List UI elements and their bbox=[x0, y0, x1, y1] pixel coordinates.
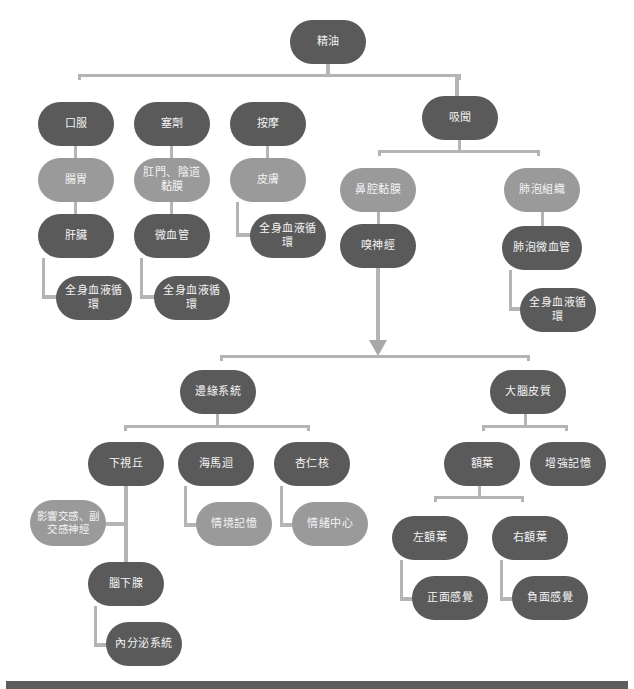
node-olfactory-nerve: 嗅神經 bbox=[340, 224, 416, 268]
connector-bracket bbox=[482, 425, 568, 431]
node-emotion-center: 情緒中心 bbox=[292, 502, 368, 546]
node-systemic-circulation: 全身血液循環 bbox=[520, 288, 596, 332]
connector-bracket bbox=[124, 425, 310, 431]
node-positive-feeling: 正面感覺 bbox=[412, 576, 488, 620]
connector bbox=[236, 202, 239, 236]
connector-bracket bbox=[434, 496, 524, 502]
connector bbox=[184, 486, 187, 526]
connector bbox=[42, 258, 45, 298]
node-inhalation: 吸聞 bbox=[422, 96, 498, 140]
node-limbic-system: 邊緣系統 bbox=[180, 370, 256, 414]
connector bbox=[94, 606, 97, 646]
node-stomach-intestine: 腸胃 bbox=[38, 158, 114, 202]
node-liver: 肝臟 bbox=[38, 214, 114, 258]
node-essential-oil: 精油 bbox=[290, 20, 366, 64]
connector bbox=[140, 258, 143, 298]
node-right-frontal-lobe: 右額葉 bbox=[492, 516, 568, 560]
connector-bracket bbox=[378, 150, 540, 156]
connector bbox=[376, 268, 380, 340]
node-systemic-circulation: 全身血液循環 bbox=[56, 276, 132, 320]
connector bbox=[500, 560, 503, 600]
connector bbox=[509, 270, 512, 310]
node-situational-memory: 情境記憶 bbox=[196, 502, 272, 546]
node-pituitary: 腦下腺 bbox=[88, 562, 164, 606]
connector-bracket bbox=[220, 355, 530, 361]
node-oral: 口服 bbox=[38, 102, 114, 146]
node-alveolar-tissue: 肺泡組織 bbox=[504, 168, 580, 212]
connector-bracket bbox=[78, 74, 461, 80]
connector bbox=[280, 486, 283, 526]
node-left-frontal-lobe: 左額葉 bbox=[392, 516, 468, 560]
connector bbox=[400, 560, 403, 600]
node-anal-vaginal-mucosa: 肛門、陰道黏膜 bbox=[134, 158, 210, 202]
node-hippocampus: 海馬迴 bbox=[178, 442, 254, 486]
node-amygdala: 杏仁核 bbox=[274, 442, 350, 486]
connector bbox=[541, 212, 544, 226]
node-endocrine-system: 內分泌系統 bbox=[106, 622, 182, 666]
node-frontal-lobe: 額葉 bbox=[444, 442, 520, 486]
node-skin: 皮膚 bbox=[230, 158, 306, 202]
node-hypothalamus: 下視丘 bbox=[88, 442, 164, 486]
node-autonomic-nerves: 影響交感、副交感神經 bbox=[30, 500, 106, 546]
node-cerebral-cortex: 大腦皮質 bbox=[490, 370, 566, 414]
node-massage: 按摩 bbox=[230, 102, 306, 146]
node-negative-feeling: 負面感覺 bbox=[512, 576, 588, 620]
node-enhance-memory: 增強記憶 bbox=[530, 442, 606, 486]
node-systemic-circulation: 全身血液循環 bbox=[154, 276, 230, 320]
node-nasal-mucosa: 鼻腔黏膜 bbox=[340, 168, 416, 212]
arrow-down-icon bbox=[369, 340, 387, 356]
node-capillaries: 微血管 bbox=[134, 214, 210, 258]
node-alveolar-capillaries: 肺泡微血管 bbox=[502, 226, 582, 270]
node-systemic-circulation: 全身血液循環 bbox=[250, 214, 326, 258]
footer-bar bbox=[6, 681, 628, 689]
node-suppository: 塞劑 bbox=[134, 102, 210, 146]
